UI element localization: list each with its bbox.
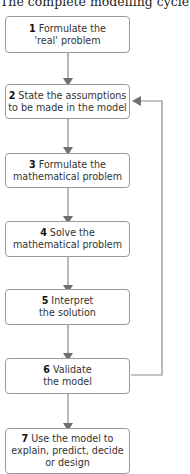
step-6-box: 6Validatethe model [5,358,130,394]
step-3-box: 3Formulate themathematical problem [5,153,130,188]
step-4-box: 4Solve themathematical problem [5,221,130,257]
step-2-box: 2State the assumptionsto be made in the … [5,84,130,119]
step-1-box: 1Formulate the'real' problem [5,16,130,53]
step-7-box: 7Use the model toexplain, predict, decid… [5,428,130,474]
step-5-box: 5Interpretthe solution [5,289,130,325]
